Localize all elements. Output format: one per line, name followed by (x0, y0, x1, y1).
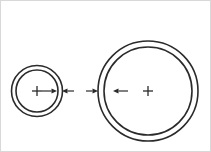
technical-drawing-canvas (0, 0, 211, 152)
page-frame (1, 1, 211, 152)
drawing-svg (0, 0, 211, 152)
right-inner-radius-arrow-icon (113, 89, 128, 94)
right-outer-edge-arrow-icon (86, 89, 98, 94)
left-inner-radius-arrow-icon (42, 89, 57, 94)
left-outer-edge-arrow-icon (62, 89, 74, 94)
left-center-cross-icon (32, 86, 42, 96)
right-center-cross-icon (143, 86, 153, 96)
right-ring-assembly (86, 41, 198, 141)
left-ring-assembly (12, 66, 75, 117)
